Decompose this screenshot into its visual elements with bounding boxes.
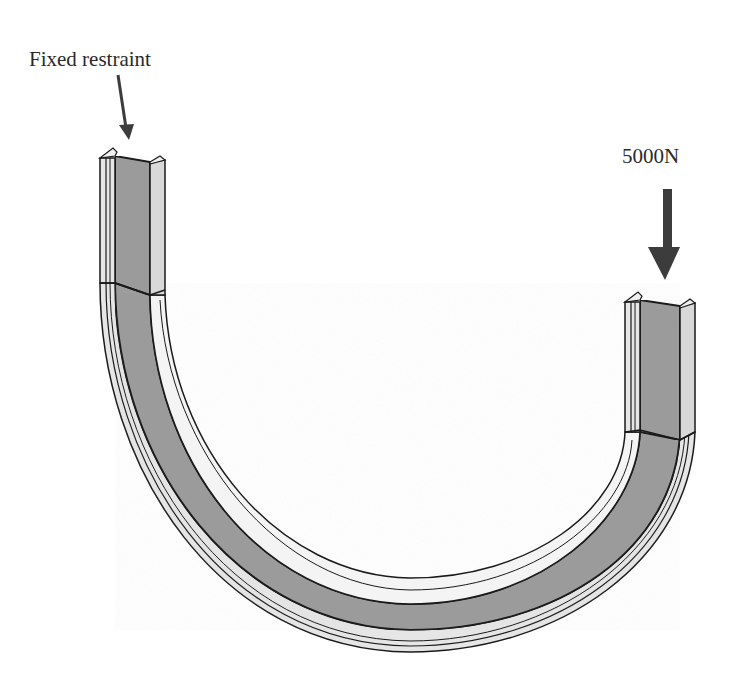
u-beam-drawing xyxy=(0,0,744,686)
right-straight-column xyxy=(625,292,695,440)
left-straight-column xyxy=(100,148,165,295)
fixed-restraint-label: Fixed restraint xyxy=(29,49,151,70)
applied-load-label: 5000N xyxy=(622,146,679,167)
fixed-restraint-arrow-icon xyxy=(118,75,134,140)
load-arrow-icon xyxy=(648,189,680,280)
curved-section xyxy=(100,283,695,652)
diagram-canvas: Fixed restraint 5000N xyxy=(0,0,744,686)
